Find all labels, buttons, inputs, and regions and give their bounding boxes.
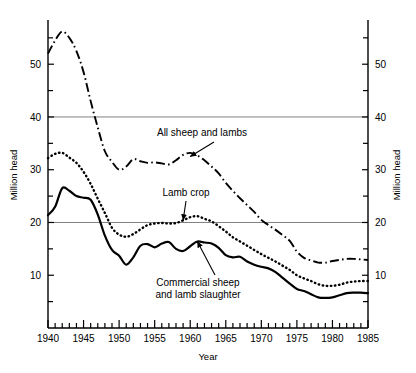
y-tick-label-right-10: 10 (375, 270, 387, 281)
annotation-label: All sheep and lambs (157, 127, 247, 138)
y-tick-label-left-30: 30 (30, 164, 42, 175)
x-tick-label-1950: 1950 (108, 333, 131, 344)
x-tick-label-1965: 1965 (215, 333, 238, 344)
y-axis-title-left: Million head (8, 150, 19, 201)
y-tick-label-right-30: 30 (375, 164, 387, 175)
x-tick-label-1970: 1970 (250, 333, 273, 344)
annotation-label: and lamb slaughter (155, 289, 241, 300)
y-tick-label-left-10: 10 (30, 270, 42, 281)
y-tick-label-right-20: 20 (375, 217, 387, 228)
chart-container: 1010202030304040505019401945195019551960… (0, 0, 416, 373)
y-tick-label-left-20: 20 (30, 217, 42, 228)
x-tick-label-1960: 1960 (179, 333, 202, 344)
y-axis-title-right: Million head (391, 150, 402, 201)
x-tick-label-1955: 1955 (144, 333, 167, 344)
x-tick-label-1945: 1945 (72, 333, 95, 344)
annotation-label: Lamb crop (162, 187, 210, 198)
x-tick-label-1940: 1940 (37, 333, 60, 344)
y-tick-label-right-50: 50 (375, 59, 387, 70)
x-axis-title: Year (198, 351, 217, 362)
x-tick-label-1975: 1975 (286, 333, 309, 344)
y-tick-label-left-40: 40 (30, 112, 42, 123)
line-chart: 1010202030304040505019401945195019551960… (0, 0, 416, 373)
annotation-label: Commercial sheep (156, 277, 240, 288)
y-tick-label-right-40: 40 (375, 112, 387, 123)
x-tick-label-1985: 1985 (357, 333, 380, 344)
y-tick-label-left-50: 50 (30, 59, 42, 70)
x-tick-label-1980: 1980 (321, 333, 344, 344)
